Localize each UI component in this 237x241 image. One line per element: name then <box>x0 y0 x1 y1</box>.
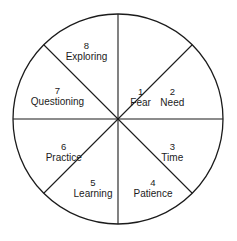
wheel-dividers <box>13 14 223 224</box>
wheel-graphic <box>0 0 237 241</box>
wheel-diagram: 1 Fear 2 Need 3 Time 4 Patience 5 Learni… <box>0 0 237 241</box>
